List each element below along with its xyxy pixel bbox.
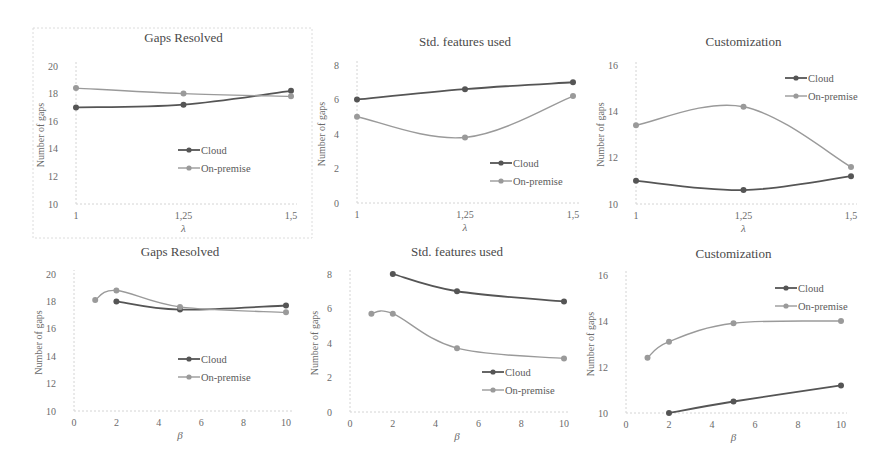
y-tick-label: 6 xyxy=(327,303,332,314)
data-point xyxy=(177,304,183,310)
data-point xyxy=(354,97,360,103)
legend: CloudOn-premise xyxy=(785,73,858,102)
data-point xyxy=(848,164,854,170)
chart-title: Std. features used xyxy=(419,34,512,49)
y-tick-label: 10 xyxy=(598,408,608,419)
legend-label: On-premise xyxy=(808,91,858,102)
y-tick-label: 18 xyxy=(46,296,56,307)
x-axis-label: λ xyxy=(180,222,186,234)
y-tick-label: 4 xyxy=(334,129,339,140)
y-tick-label: 10 xyxy=(46,406,56,417)
legend-marker xyxy=(783,285,788,290)
x-tick-label: 1,25 xyxy=(735,210,753,221)
x-axis-label: β xyxy=(730,431,737,443)
data-point xyxy=(570,93,576,99)
y-tick-label: 18 xyxy=(48,88,58,99)
data-point xyxy=(838,318,844,324)
series-line xyxy=(393,274,564,302)
legend-label: On-premise xyxy=(201,372,251,383)
x-tick-label: 1,5 xyxy=(285,210,298,221)
data-point xyxy=(288,93,294,99)
legend-label: Cloud xyxy=(798,283,824,294)
legend-marker xyxy=(186,356,191,361)
legend-label: On-premise xyxy=(201,163,251,174)
x-axis-label: λ xyxy=(462,221,468,233)
chart-1: Gaps Resolved10121416182011,251,5λNumber… xyxy=(33,28,312,238)
chart-5: Std. features used024680246810βNumber of… xyxy=(309,244,570,442)
data-point xyxy=(113,287,119,293)
series-line xyxy=(648,321,842,358)
legend-label: Cloud xyxy=(505,367,531,378)
series-cloud xyxy=(390,271,567,305)
chart-title: Customization xyxy=(706,34,782,49)
legend-label: On-premise xyxy=(505,385,555,396)
series-line xyxy=(357,96,573,138)
data-point xyxy=(848,173,854,179)
data-point xyxy=(181,91,187,97)
x-tick-label: 6 xyxy=(753,419,758,430)
series-on-premise xyxy=(633,104,854,170)
data-point xyxy=(73,104,79,110)
y-axis-label: Number of gaps xyxy=(35,103,46,168)
chart-6: Customization101214160246810βNumber of g… xyxy=(585,246,848,443)
y-tick-label: 16 xyxy=(46,323,56,334)
y-tick-label: 12 xyxy=(46,378,56,389)
y-tick-label: 20 xyxy=(46,269,56,280)
x-axis-label: β xyxy=(453,430,460,442)
chart-4: Gaps Resolved1012141618200246810βNumber … xyxy=(33,244,292,441)
legend: CloudOn-premise xyxy=(178,354,251,383)
chart-title: Customization xyxy=(696,246,772,261)
x-tick-label: 4 xyxy=(710,419,715,430)
data-point xyxy=(666,410,672,416)
x-tick-label: 6 xyxy=(476,418,481,429)
data-point xyxy=(92,297,98,303)
y-tick-label: 8 xyxy=(334,60,339,71)
x-axis-label: λ xyxy=(740,222,746,234)
series-line xyxy=(371,311,564,359)
legend-marker xyxy=(490,369,495,374)
legend: CloudOn-premise xyxy=(775,283,848,312)
data-point xyxy=(454,288,460,294)
x-axis-label: β xyxy=(176,429,183,441)
series-cloud xyxy=(666,382,844,416)
x-tick-label: 8 xyxy=(796,419,801,430)
chart-title: Gaps Resolved xyxy=(141,244,220,259)
legend-label: Cloud xyxy=(808,73,834,84)
x-tick-label: 1 xyxy=(634,210,639,221)
data-point xyxy=(570,79,576,85)
series-on-premise xyxy=(354,93,576,140)
data-point xyxy=(354,114,360,120)
x-tick-label: 8 xyxy=(241,417,246,428)
x-tick-label: 0 xyxy=(624,419,629,430)
legend-label: On-premise xyxy=(513,176,563,187)
y-tick-label: 16 xyxy=(48,116,58,127)
x-tick-label: 2 xyxy=(114,417,119,428)
chart-title: Gaps Resolved xyxy=(144,30,223,45)
chart-frame xyxy=(33,28,312,238)
x-tick-label: 10 xyxy=(559,418,569,429)
y-tick-label: 0 xyxy=(327,407,332,418)
data-point xyxy=(390,271,396,277)
y-tick-label: 16 xyxy=(598,270,608,281)
data-point xyxy=(283,303,289,309)
data-point xyxy=(454,345,460,351)
data-point xyxy=(666,339,672,345)
y-axis-label: Number of gaps xyxy=(309,311,320,376)
data-point xyxy=(368,311,374,317)
data-point xyxy=(633,122,639,128)
y-tick-label: 0 xyxy=(334,198,339,209)
series-on-premise xyxy=(73,85,294,99)
legend-marker xyxy=(186,147,191,152)
x-tick-label: 10 xyxy=(281,417,291,428)
x-tick-label: 0 xyxy=(348,418,353,429)
y-tick-label: 14 xyxy=(48,143,58,154)
series-line xyxy=(669,385,841,413)
series-on-premise xyxy=(645,318,845,361)
y-tick-label: 2 xyxy=(327,372,332,383)
x-tick-label: 1,25 xyxy=(456,209,474,220)
data-point xyxy=(390,311,396,317)
x-tick-label: 1,5 xyxy=(567,209,580,220)
y-axis-label: Number of gaps xyxy=(33,310,44,375)
legend-marker xyxy=(793,93,798,98)
data-point xyxy=(731,399,737,405)
